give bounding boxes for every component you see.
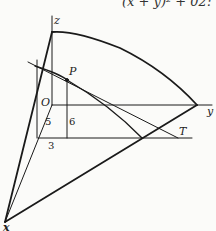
y-label: y	[207, 106, 213, 117]
x-label: x	[3, 222, 10, 231]
dimension-5: 5	[45, 117, 51, 127]
point-p	[66, 79, 69, 82]
dimension-6: 6	[69, 117, 75, 127]
z-label: z	[54, 15, 60, 26]
xy-edge	[5, 105, 197, 222]
surface-diagram	[0, 0, 216, 231]
origin-label: O	[41, 97, 50, 108]
trace-curve	[35, 66, 142, 138]
zx-edge	[5, 32, 52, 222]
p-label: P	[69, 66, 76, 77]
t-label: T	[179, 126, 186, 137]
dimension-3: 3	[48, 141, 54, 151]
